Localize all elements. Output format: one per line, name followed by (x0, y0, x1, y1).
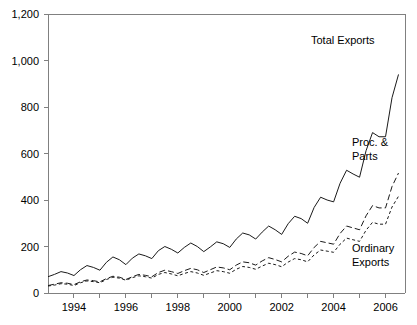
exports-line-chart: 02004006008001,0001,200 1994199619982000… (0, 0, 417, 325)
series-annotation-group: Total ExportsProc. &PartsOrdinaryExports (311, 34, 395, 268)
series-annotation: Total Exports (311, 34, 375, 46)
series-annotation: Parts (352, 150, 378, 162)
y-tick-label: 1,000 (11, 55, 39, 67)
series-annotation: Ordinary (352, 242, 395, 254)
x-tick-label: 1994 (62, 301, 86, 313)
y-tick-label: 0 (33, 287, 39, 299)
data-series-group (48, 74, 399, 286)
chart-canvas: 02004006008001,0001,200 1994199619982000… (0, 0, 417, 325)
x-tick-label: 2000 (218, 301, 242, 313)
x-tick-label: 1998 (166, 301, 190, 313)
series-path-total-exports (48, 74, 399, 276)
y-tick-label: 600 (21, 148, 39, 160)
y-tick-label: 1,200 (11, 8, 39, 20)
series-path-ordinary-exports (48, 196, 399, 286)
y-tick-label: 200 (21, 241, 39, 253)
series-annotation: Proc. & (352, 136, 389, 148)
series-annotation: Exports (352, 256, 390, 268)
x-tick-label: 2006 (373, 301, 397, 313)
x-tick-label: 2002 (269, 301, 293, 313)
x-axis-tick-group: 1994199619982000200220042006 (62, 293, 398, 313)
y-tick-label: 800 (21, 101, 39, 113)
y-axis-tick-group: 02004006008001,0001,200 (11, 8, 48, 299)
x-tick-label: 1996 (114, 301, 138, 313)
y-tick-label: 400 (21, 194, 39, 206)
x-tick-label: 2004 (321, 301, 345, 313)
